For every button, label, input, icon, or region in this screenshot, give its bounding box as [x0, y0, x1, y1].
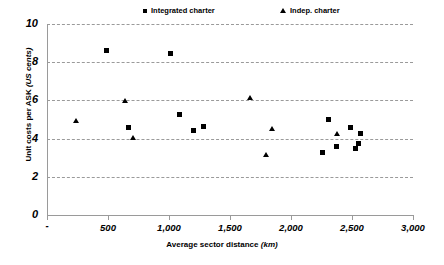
legend-item-indep-charter: Indep. charter — [280, 6, 340, 15]
chart-legend: Integrated charter Indep. charter — [0, 6, 444, 22]
data-point-triangle — [122, 98, 128, 103]
gridline — [47, 24, 413, 25]
data-point-square — [353, 146, 358, 151]
y-axis-title-text: Unit costs per ASK — [24, 89, 33, 161]
data-point-square — [334, 144, 339, 149]
gridline — [47, 139, 413, 140]
plot-area — [47, 24, 414, 215]
triangle-marker-icon — [280, 8, 286, 13]
data-point-square — [348, 125, 353, 130]
x-tick — [413, 215, 414, 220]
data-point-square — [326, 117, 331, 122]
x-tick — [169, 215, 170, 220]
data-point-square — [320, 150, 325, 155]
x-tick — [108, 215, 109, 220]
x-tick-label: 2,000 — [261, 222, 321, 233]
data-point-square — [201, 124, 206, 129]
data-point-triangle — [263, 152, 269, 157]
gridline — [47, 100, 413, 101]
data-point-triangle — [130, 135, 136, 140]
x-tick-label: 2,500 — [322, 222, 382, 233]
x-axis-title-text: Average sector distance — [166, 240, 258, 249]
legend-item-integrated-charter: Integrated charter — [143, 6, 215, 15]
x-axis-title-unit: (km) — [261, 240, 278, 249]
x-tick-label: 1,500 — [200, 222, 260, 233]
x-tick-label: 3,000 — [383, 222, 443, 233]
y-axis-title-unit: (US cents) — [24, 48, 33, 88]
x-tick-label: - — [17, 220, 77, 231]
data-point-square — [177, 112, 182, 117]
data-point-triangle — [269, 126, 275, 131]
y-axis-title: Unit costs per ASK (US cents) — [24, 15, 33, 195]
square-marker-icon — [143, 9, 147, 13]
legend-label: Indep. charter — [290, 6, 340, 15]
scatter-chart: Integrated charter Indep. charter 024681… — [0, 0, 444, 265]
data-point-triangle — [334, 131, 340, 136]
x-axis-title: Average sector distance (km) — [0, 240, 444, 249]
data-point-square — [356, 141, 361, 146]
data-point-triangle — [73, 118, 79, 123]
data-point-square — [168, 51, 173, 56]
gridline — [47, 62, 413, 63]
data-point-triangle — [247, 95, 253, 100]
data-point-square — [191, 128, 196, 133]
x-tick-label: 1,000 — [139, 222, 199, 233]
y-tick-label: 0 — [0, 209, 38, 220]
gridline — [47, 177, 413, 178]
data-point-square — [104, 48, 109, 53]
x-tick-label: 500 — [78, 222, 138, 233]
x-tick — [291, 215, 292, 220]
data-point-square — [358, 131, 363, 136]
x-tick — [230, 215, 231, 220]
data-point-square — [126, 125, 131, 130]
legend-label: Integrated charter — [151, 6, 215, 15]
x-tick — [352, 215, 353, 220]
